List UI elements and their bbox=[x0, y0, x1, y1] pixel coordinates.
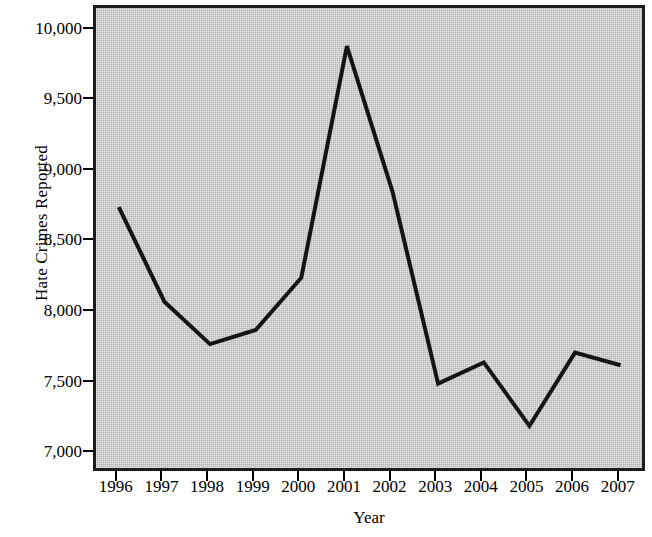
series-line-hate-crimes-reported bbox=[93, 5, 645, 471]
y-tick-label: 7,000 bbox=[8, 443, 82, 460]
y-tick-label: 8,500 bbox=[8, 231, 82, 248]
plot-area bbox=[93, 5, 645, 471]
x-tick-label: 2007 bbox=[588, 478, 648, 495]
y-tick-label: 8,000 bbox=[8, 302, 82, 319]
y-tick-label: 7,500 bbox=[8, 372, 82, 389]
y-tick-label: 9,500 bbox=[8, 90, 82, 107]
y-tick-label: 10,000 bbox=[8, 19, 82, 36]
y-axis-ticks: 7,0007,5008,0008,5009,0009,50010,000 bbox=[0, 0, 82, 537]
x-axis-title: Year bbox=[93, 508, 645, 528]
chart-figure: Hate Crimes Reported 7,0007,5008,0008,50… bbox=[0, 0, 652, 537]
y-tick-label: 9,000 bbox=[8, 160, 82, 177]
